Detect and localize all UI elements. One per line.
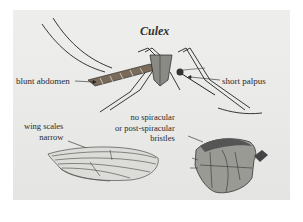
figure-title: Culex: [140, 25, 169, 37]
label-spiracular-line3: bristles: [115, 133, 175, 144]
mosquito-thorax: [150, 55, 172, 86]
wing-illustration: [48, 147, 158, 181]
label-short-palpus: short palpus: [222, 77, 266, 86]
label-wing-line2: narrow: [24, 132, 63, 143]
label-spiracular-line1: no spiracular: [115, 112, 175, 123]
mosquito-proboscis: [182, 74, 215, 95]
label-wing-line1: wing scales: [24, 121, 63, 132]
mosquito-palpus: [183, 68, 205, 70]
label-spiracular-bristles: no spiracular or post-spiracular bristle…: [115, 112, 175, 144]
label-wing-scales: wing scales narrow: [24, 121, 63, 142]
thorax-side-view: [190, 139, 268, 193]
label-spiracular-line2: or post-spiracular: [115, 123, 175, 134]
label-blunt-abdomen: blunt abdomen: [16, 77, 70, 86]
